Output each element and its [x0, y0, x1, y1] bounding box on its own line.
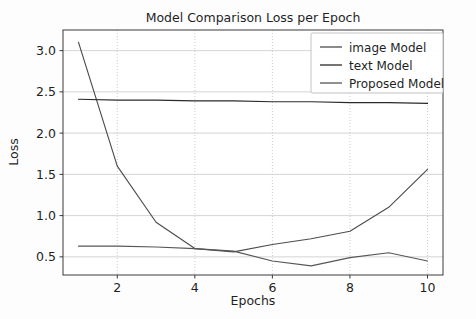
y-tick-label: 2.5	[36, 84, 56, 99]
x-tick-label: 10	[420, 280, 436, 295]
y-tick-label: 1.0	[36, 208, 56, 223]
line-chart: 0.51.01.52.02.53.0246810 Model Compariso…	[0, 0, 476, 319]
chart-legend: image Modeltext ModelProposed Model	[311, 33, 444, 93]
chart-title: Model Comparison Loss per Epoch	[146, 10, 361, 25]
legend-label-1[interactable]: text Model	[349, 59, 413, 73]
legend-label-2[interactable]: Proposed Model	[349, 77, 444, 91]
y-tick-label: 0.5	[36, 249, 56, 264]
y-tick-label: 3.0	[36, 43, 56, 58]
x-tick-label: 8	[346, 280, 354, 295]
x-axis-label: Epochs	[231, 293, 276, 308]
y-axis-label: Loss	[6, 138, 21, 165]
x-tick-label: 2	[113, 280, 121, 295]
legend-label-0[interactable]: image Model	[349, 41, 426, 55]
y-tick-label: 2.0	[36, 126, 56, 141]
y-tick-label: 1.5	[36, 167, 56, 182]
x-tick-label: 4	[191, 280, 199, 295]
chart-figure: 0.51.01.52.02.53.0246810 Model Compariso…	[0, 0, 476, 319]
